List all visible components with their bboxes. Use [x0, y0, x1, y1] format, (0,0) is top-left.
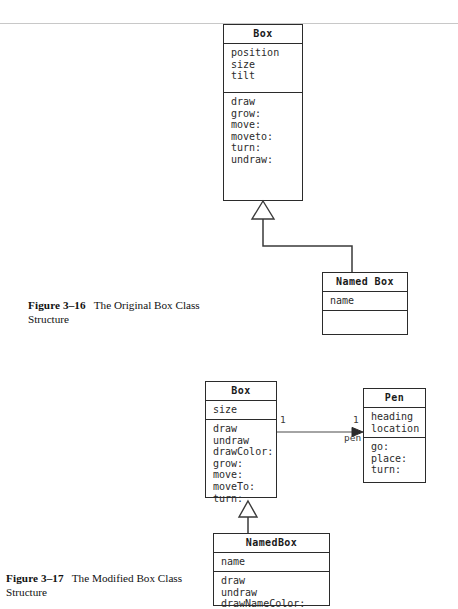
- class-operations-box: draw grow: move: moveto: turn: undraw:: [224, 93, 302, 170]
- attribute-item: name: [330, 295, 400, 307]
- uml-class-box-fig317: Box size draw undraw drawColor: grow: mo…: [205, 381, 277, 498]
- uml-class-named-box-fig317: NamedBox name draw undraw drawNameColor:: [213, 533, 330, 606]
- association-source-multiplicity: 1: [280, 414, 286, 425]
- hollow-triangle-icon: [252, 201, 274, 219]
- class-attributes-box: size: [206, 401, 276, 420]
- operation-item: drawColor:: [213, 446, 269, 458]
- class-attributes-pen: heading location: [364, 408, 425, 438]
- figure-title-line2: Structure: [28, 313, 69, 325]
- uml-class-box-fig316: Box position size tilt draw grow: move: …: [223, 24, 303, 201]
- attribute-item: name: [221, 556, 322, 568]
- attribute-item: location: [371, 423, 418, 435]
- attribute-item: heading: [371, 411, 418, 423]
- class-operations-named-box: draw undraw drawNameColor:: [214, 572, 329, 609]
- operation-item: grow:: [231, 108, 295, 120]
- elbow-line: [263, 219, 352, 274]
- attribute-item: size: [213, 404, 269, 416]
- operation-item: go:: [371, 441, 418, 453]
- figure-title-line2: Structure: [6, 586, 47, 598]
- class-name-box: Box: [224, 25, 302, 44]
- generalization-connector-fig317: [233, 497, 263, 535]
- attribute-item: tilt: [231, 70, 295, 82]
- class-name-named-box: Named Box: [323, 273, 407, 292]
- operation-item: move:: [231, 119, 295, 131]
- figure-title-line1: The Original Box Class: [94, 299, 200, 311]
- class-attributes-named-box: name: [323, 292, 407, 311]
- figure-number: Figure 3–16: [28, 299, 86, 311]
- operation-item: grow:: [213, 458, 269, 470]
- association-role-name: pen: [344, 432, 361, 443]
- operation-item: drawNameColor:: [221, 598, 322, 609]
- operation-item: place:: [371, 453, 418, 465]
- attribute-item: size: [231, 59, 295, 71]
- class-attributes-named-box: name: [214, 553, 329, 572]
- figure-title-line1: The Modified Box Class: [72, 572, 182, 584]
- operation-item: moveTo:: [213, 481, 269, 493]
- operation-item: undraw: [221, 587, 322, 599]
- class-attributes-box: position size tilt: [224, 44, 302, 93]
- uml-class-pen-fig317: Pen heading location go: place: turn:: [363, 388, 426, 483]
- class-name-pen: Pen: [364, 389, 425, 408]
- operation-item: turn:: [231, 142, 295, 154]
- operation-item: undraw:: [231, 154, 295, 166]
- class-operations-box: draw undraw drawColor: grow: move: moveT…: [206, 420, 276, 508]
- operation-item: moveto:: [231, 131, 295, 143]
- class-operations-pen: go: place: turn:: [364, 438, 425, 480]
- attribute-item: position: [231, 47, 295, 59]
- operation-item: move:: [213, 469, 269, 481]
- uml-class-named-box-fig316: Named Box name: [322, 272, 408, 335]
- figure-number: Figure 3–17: [6, 572, 64, 584]
- association-target-multiplicity: 1: [353, 414, 359, 425]
- class-name-box: Box: [206, 382, 276, 401]
- hollow-triangle-icon: [239, 501, 257, 517]
- operation-item: turn:: [371, 464, 418, 476]
- operation-item: undraw: [213, 435, 269, 447]
- generalization-connector-fig316: [223, 198, 403, 274]
- operation-item: draw: [231, 96, 295, 108]
- class-operations-named-box: [323, 311, 407, 328]
- figure-caption-3-17: Figure 3–17The Modified Box Class Struct…: [6, 572, 221, 599]
- operation-item: draw: [213, 423, 269, 435]
- operation-item: draw: [221, 575, 322, 587]
- class-name-named-box: NamedBox: [214, 534, 329, 553]
- figure-caption-3-16: Figure 3–16The Original Box Class Struct…: [28, 299, 243, 326]
